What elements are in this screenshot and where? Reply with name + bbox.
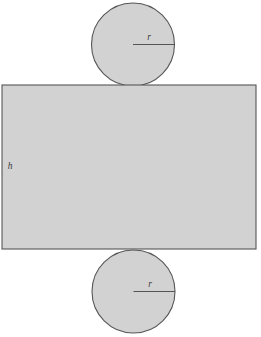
lateral-rectangle-shape [2, 85, 256, 249]
cylinder-net-diagram: r r h [0, 0, 261, 337]
top-radius-label: r [147, 32, 151, 42]
bottom-radius-label: r [148, 279, 152, 289]
cylinder-net-canvas: r r h [0, 0, 261, 337]
height-label: h [8, 161, 13, 171]
